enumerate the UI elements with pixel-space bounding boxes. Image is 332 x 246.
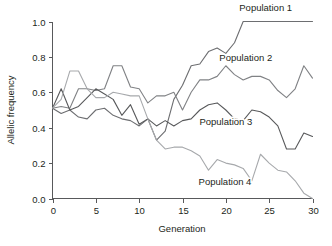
x-tick-label: 20 bbox=[221, 205, 232, 216]
y-axis-title: Allelic frequency bbox=[5, 75, 16, 144]
x-axis-title: Generation bbox=[158, 223, 205, 234]
chart-figure: 0.00.20.40.60.81.0 051015202530 Populati… bbox=[0, 0, 332, 246]
y-tick-marks bbox=[49, 23, 53, 200]
series-label-population-4: Population 4 bbox=[199, 176, 252, 187]
y-tick-label: 1.0 bbox=[32, 17, 45, 28]
y-tick-labels: 0.00.20.40.60.81.0 bbox=[32, 17, 45, 205]
x-tick-label: 0 bbox=[51, 205, 56, 216]
x-tick-label: 30 bbox=[308, 205, 319, 216]
series-line-population-3 bbox=[53, 89, 313, 149]
y-tick-label: 0.6 bbox=[32, 87, 45, 98]
series-label-population-1: Population 1 bbox=[239, 2, 292, 13]
x-tick-marks bbox=[54, 199, 314, 203]
y-tick-label: 0.4 bbox=[32, 123, 45, 134]
series-label-population-2: Population 2 bbox=[219, 52, 272, 63]
series-label-population-3: Population 3 bbox=[199, 116, 252, 127]
series-lines bbox=[53, 22, 313, 199]
y-tick-label: 0.2 bbox=[32, 158, 45, 169]
x-tick-labels: 051015202530 bbox=[51, 205, 319, 216]
x-tick-label: 25 bbox=[264, 205, 275, 216]
x-tick-label: 5 bbox=[94, 205, 99, 216]
series-line-population-1 bbox=[53, 22, 313, 141]
series-line-population-2 bbox=[53, 66, 313, 110]
series-annotations: Population 1Population 1Population 2Popu… bbox=[199, 2, 293, 187]
x-tick-label: 10 bbox=[134, 205, 145, 216]
allelic-frequency-line-chart: 0.00.20.40.60.81.0 051015202530 Populati… bbox=[0, 0, 332, 246]
y-tick-label: 0.8 bbox=[32, 52, 45, 63]
x-tick-label: 15 bbox=[178, 205, 189, 216]
y-tick-label: 0.0 bbox=[32, 194, 45, 205]
